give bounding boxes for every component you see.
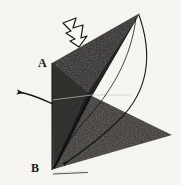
vertex-label-a: A (38, 57, 47, 69)
figure-canvas (0, 0, 181, 185)
vertex-label-b: B (31, 162, 39, 174)
origami-fold-figure: A B (0, 0, 181, 185)
